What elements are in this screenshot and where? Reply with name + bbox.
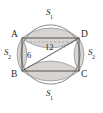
vertex-label-c: C: [81, 70, 87, 80]
vertex-label-d: D: [81, 30, 88, 40]
region-label-left-subscript: 2: [8, 54, 11, 60]
vertex-label-a: A: [11, 30, 18, 40]
vertex-label-b: B: [11, 70, 17, 80]
geometry-figure: A D B C S1 S1 S2 S2 12 6: [0, 0, 103, 113]
region-label-left: S2: [4, 48, 12, 59]
region-label-right-subscript: 2: [92, 54, 95, 60]
measure-label-side: 6: [27, 51, 31, 60]
region-label-bottom-subscript: 1: [50, 95, 53, 101]
region-label-right: S2: [88, 48, 96, 59]
region-label-bottom: S1: [46, 89, 54, 100]
region-label-top-subscript: 1: [50, 14, 53, 20]
measure-label-diagonal: 12: [45, 43, 54, 52]
region-label-top: S1: [46, 8, 54, 19]
